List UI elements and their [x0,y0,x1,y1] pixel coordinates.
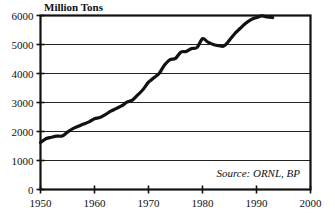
y-tick-label: 0 [28,184,34,196]
x-tick-label: 2000 [300,197,323,209]
x-axis-tick-labels: 195019601970198019902000 [30,197,323,209]
y-tick-label: 2000 [12,126,35,138]
y-axis-tick-labels: 0100020003000400050006000 [12,10,35,196]
chart-title: Million Tons [44,1,104,13]
chart-container: 0100020003000400050006000 19501960197019… [0,0,335,215]
y-tick-label: 1000 [12,155,35,167]
line-chart: 0100020003000400050006000 19501960197019… [0,0,335,215]
y-tick-label: 3000 [12,97,35,109]
x-tick-label: 1950 [30,197,53,209]
y-tick-label: 4000 [12,68,35,80]
x-tick-label: 1980 [192,197,215,209]
y-tick-label: 6000 [12,10,35,22]
x-tick-label: 1990 [246,197,269,209]
gridlines [41,45,311,161]
y-tick-label: 5000 [12,39,35,51]
data-series-line [41,16,273,143]
x-tick-label: 1970 [138,197,161,209]
x-tick-label: 1960 [84,197,107,209]
source-annotation: Source: ORNL, BP [216,167,300,179]
